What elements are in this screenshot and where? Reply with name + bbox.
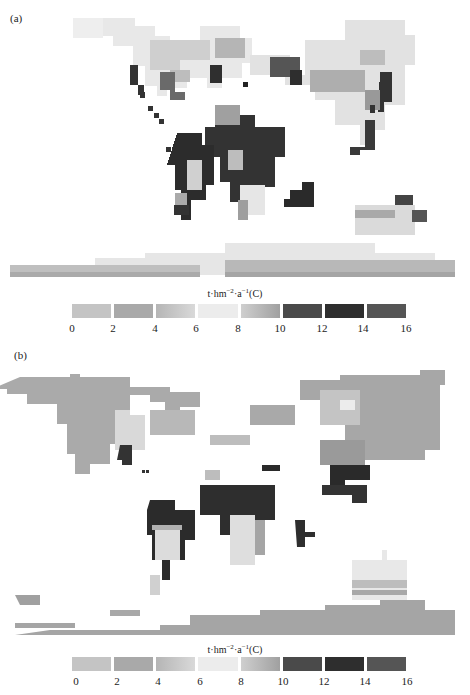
panel-b-colorbar xyxy=(72,657,406,671)
colorbar-bin-2-4 xyxy=(114,304,153,318)
tick-label: 16 xyxy=(401,322,412,334)
colorbar-bin-6-8 xyxy=(198,657,237,671)
colorbar-bin-0-2 xyxy=(72,304,111,318)
tick-label: 0 xyxy=(69,322,75,334)
tick-label: 2 xyxy=(110,322,116,334)
tick-label: 2 xyxy=(114,675,120,687)
tick-label: 14 xyxy=(358,322,369,334)
colorbar-bin-4-6 xyxy=(156,304,195,318)
tick-label: 0 xyxy=(73,675,79,687)
panel-a-colorbar-ticks: 0 2 4 6 8 10 12 14 16 xyxy=(66,322,412,336)
antarctica-region xyxy=(15,600,455,635)
tick-label: 6 xyxy=(193,322,199,334)
tick-label: 10 xyxy=(278,675,289,687)
panel-a-colorbar xyxy=(72,304,406,318)
colorbar-bin-14-16 xyxy=(367,304,406,318)
tick-label: 16 xyxy=(402,675,413,687)
colorbar-bin-0-2 xyxy=(72,657,111,671)
tick-label: 12 xyxy=(317,322,328,334)
colorbar-bin-12-14 xyxy=(325,304,364,318)
colorbar-bin-10-12 xyxy=(283,657,322,671)
panel-b-unit: t·hm−2·a−1(C) xyxy=(0,643,470,655)
tick-label: 4 xyxy=(155,675,161,687)
tick-label: 12 xyxy=(319,675,330,687)
colorbar-bin-2-4 xyxy=(114,657,153,671)
panel-a-unit: t·hm−2·a−1(C) xyxy=(0,287,470,299)
se-asia-dark xyxy=(284,182,314,207)
australia-region xyxy=(355,205,415,235)
colorbar-bin-4-6 xyxy=(156,657,195,671)
colorbar-bin-10-12 xyxy=(283,304,322,318)
colorbar-bin-12-14 xyxy=(325,657,364,671)
tick-label: 4 xyxy=(152,322,158,334)
panel-b-label: (b) xyxy=(14,349,27,361)
colorbar-bin-8-10 xyxy=(241,657,280,671)
tick-label: 6 xyxy=(197,675,203,687)
colorbar-bin-8-10 xyxy=(241,304,280,318)
panel-b-map xyxy=(0,365,470,645)
tick-label: 14 xyxy=(360,675,371,687)
tick-label: 10 xyxy=(275,322,286,334)
tick-label: 8 xyxy=(235,322,241,334)
panel-a-map xyxy=(0,10,470,290)
tick-label: 8 xyxy=(238,675,244,687)
colorbar-bin-6-8 xyxy=(198,304,237,318)
na-east-dark xyxy=(210,65,222,83)
colorbar-bin-14-16 xyxy=(367,657,406,671)
panel-b-colorbar-ticks: 0 2 4 6 8 10 12 14 16 xyxy=(66,675,412,689)
